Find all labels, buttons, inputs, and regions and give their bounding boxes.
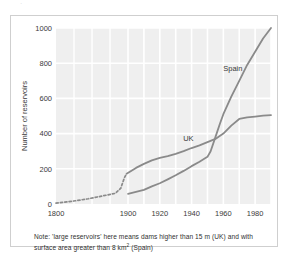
y-axis-tick-label: 0 [48, 200, 52, 209]
y-axis-tick-label: 200 [39, 165, 52, 174]
series-label-uk: UK [183, 134, 193, 143]
scan-artifact-glyph: · [20, 0, 23, 7]
y-axis-tick-label: 800 [39, 59, 52, 68]
note-text-tail: (Spain) [129, 245, 153, 252]
y-axis-tick-label: 400 [39, 129, 52, 138]
x-axis-tick-label: 1920 [151, 209, 168, 218]
figure-frame: 0200400600800100018001900192019401960198… [10, 15, 278, 247]
x-axis-tick-label: 1940 [183, 209, 200, 218]
series-label-spain: Spain [223, 64, 242, 73]
reservoirs-line-chart: 0200400600800100018001900192019401960198… [11, 16, 279, 248]
x-axis-tick-label: 1960 [215, 209, 232, 218]
figure-note: Note: 'large reservoirs' here means dams… [34, 232, 277, 253]
x-axis-tick-label: 1900 [120, 209, 137, 218]
y-axis-title: Number of reservoirs [20, 81, 29, 151]
x-axis-tick-label: 1800 [48, 209, 65, 218]
y-axis-tick-label: 600 [39, 94, 52, 103]
x-axis-tick-label: 1980 [247, 209, 264, 218]
y-axis-tick-label: 1000 [35, 24, 52, 33]
chart-svg: 0200400600800100018001900192019401960198… [11, 16, 279, 248]
